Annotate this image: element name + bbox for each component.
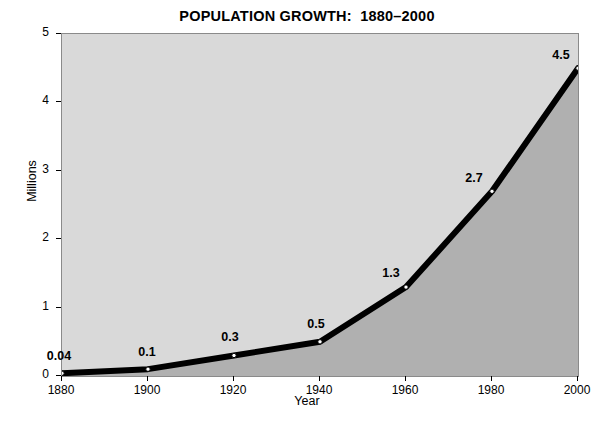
x-tick-label: 2000 — [547, 383, 607, 397]
y-tick-mark — [56, 238, 61, 239]
data-point-marker — [232, 353, 236, 357]
y-tick-label: 4 — [9, 93, 49, 107]
x-tick-label: 1940 — [289, 383, 349, 397]
data-point-marker — [146, 367, 150, 371]
data-point-marker — [318, 340, 322, 344]
y-axis-title: Millions — [25, 141, 39, 221]
x-tick-label: 1920 — [203, 383, 263, 397]
chart-figure: POPULATION GROWTH: 1880–2000 Millions Ye… — [0, 0, 614, 426]
data-point-value-label: 4.5 — [552, 48, 569, 62]
x-tick-mark — [491, 376, 492, 381]
chart-title: POPULATION GROWTH: 1880–2000 — [0, 8, 614, 24]
data-point-value-label: 0.04 — [47, 349, 71, 363]
y-tick-label: 0 — [9, 367, 49, 381]
data-point-value-label: 0.3 — [221, 330, 238, 344]
data-point-marker — [62, 371, 64, 375]
x-tick-label: 1880 — [31, 383, 91, 397]
y-tick-mark — [56, 33, 61, 34]
y-tick-label: 3 — [9, 162, 49, 176]
x-tick-mark — [233, 376, 234, 381]
y-tick-label: 2 — [9, 230, 49, 244]
data-point-value-label: 0.5 — [307, 317, 324, 331]
data-point-value-label: 2.7 — [465, 171, 482, 185]
x-tick-mark — [405, 376, 406, 381]
x-tick-label: 1900 — [117, 383, 177, 397]
y-tick-mark — [56, 170, 61, 171]
x-tick-mark — [319, 376, 320, 381]
y-tick-label: 1 — [9, 299, 49, 313]
y-tick-mark — [56, 307, 61, 308]
y-tick-label: 5 — [9, 25, 49, 39]
data-point-marker — [404, 285, 408, 289]
data-point-value-label: 1.3 — [382, 266, 399, 280]
x-tick-mark — [147, 376, 148, 381]
data-point-value-label: 0.1 — [138, 345, 155, 359]
x-tick-mark — [61, 376, 62, 381]
x-tick-label: 1980 — [461, 383, 521, 397]
data-point-marker — [576, 66, 578, 70]
data-point-marker — [490, 189, 494, 193]
x-tick-label: 1960 — [375, 383, 435, 397]
x-tick-mark — [577, 376, 578, 381]
y-tick-mark — [56, 101, 61, 102]
